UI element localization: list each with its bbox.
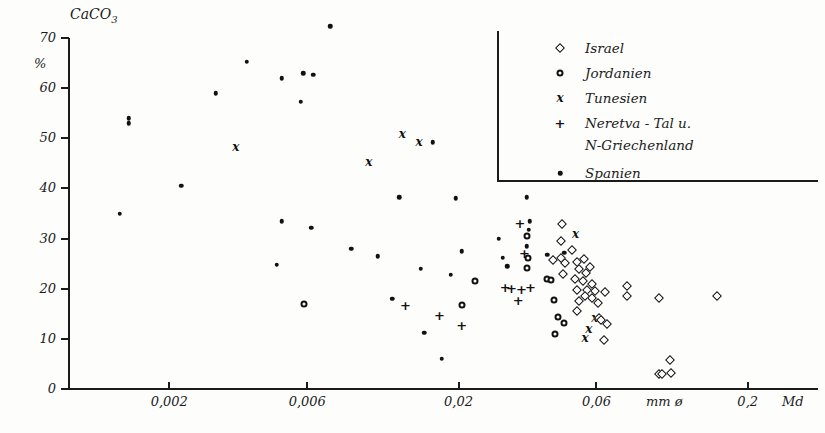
marker-circle (557, 70, 564, 77)
marker-diamond (570, 274, 580, 284)
marker-diamond (596, 315, 606, 325)
marker-diamond (574, 264, 584, 274)
marker-diamond (560, 258, 570, 268)
marker-dot (558, 171, 563, 176)
marker-diamond (594, 313, 604, 323)
legend-marker-dot (549, 165, 571, 181)
marker-diamond (600, 287, 610, 297)
marker-diamond (665, 355, 675, 365)
marker-diamond (557, 219, 567, 229)
scatter-plot-figure: CaCO3 % 010203040506070 0,0020,0060,020,… (0, 0, 825, 433)
legend: IsraelJordanienxTunesien+Neretva - Tal u… (497, 31, 818, 182)
marker-diamond (581, 268, 591, 278)
legend-label: Jordanien (585, 65, 651, 81)
marker-diamond (572, 257, 582, 267)
marker-diamond (654, 370, 664, 380)
marker-diamond (556, 236, 566, 246)
marker-diamond (578, 276, 588, 286)
marker-diamond (712, 291, 722, 301)
marker-x: x (556, 92, 563, 104)
marker-diamond (666, 368, 676, 378)
marker-diamond (599, 335, 609, 345)
legend-label: Neretva - Tal u. (585, 115, 691, 131)
legend-marker-plus: + (549, 115, 571, 131)
legend-label: Tunesien (585, 90, 647, 106)
legend-item-jordanien[interactable]: Jordanien (549, 62, 651, 84)
legend-item-tunesien[interactable]: xTunesien (549, 87, 647, 109)
marker-diamond (586, 262, 596, 272)
marker-diamond (587, 293, 597, 303)
legend-marker-circle (549, 65, 571, 81)
marker-diamond (623, 291, 633, 301)
marker-diamond (590, 286, 600, 296)
marker-diamond (567, 245, 577, 255)
marker-diamond (558, 269, 568, 279)
marker-diamond (657, 370, 667, 380)
legend-border-left (497, 31, 499, 182)
marker-diamond (580, 291, 590, 301)
legend-item-israel[interactable]: Israel (549, 37, 624, 59)
marker-diamond (602, 319, 612, 329)
legend-marker-x: x (549, 90, 571, 106)
legend-border-bottom (497, 180, 818, 182)
legend-item-spanien[interactable]: Spanien (549, 162, 641, 184)
marker-diamond (622, 281, 632, 291)
marker-diamond (582, 285, 592, 295)
marker-diamond (548, 255, 558, 265)
marker-diamond (654, 293, 664, 303)
legend-marker-diamond (549, 40, 571, 56)
marker-diamond (556, 253, 566, 263)
marker-diamond (572, 285, 582, 295)
marker-diamond (587, 279, 597, 289)
legend-item-neretva-tal-u[interactable]: +Neretva - Tal u. (549, 112, 691, 134)
legend-label: Israel (585, 40, 624, 56)
legend-label: Spanien (585, 165, 641, 181)
marker-diamond (572, 306, 582, 316)
legend-label-continuation: N-Griechenland (585, 137, 694, 153)
marker-diamond (574, 296, 584, 306)
marker-plus: + (555, 117, 566, 130)
marker-diamond (555, 43, 565, 53)
marker-diamond (593, 298, 603, 308)
marker-diamond (579, 254, 589, 264)
